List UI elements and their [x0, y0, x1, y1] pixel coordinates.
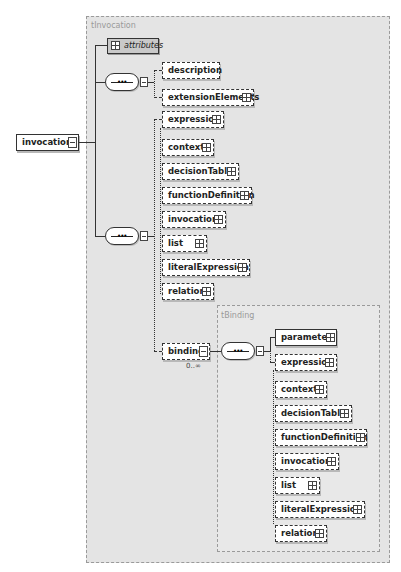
expand-icon[interactable] [356, 433, 365, 442]
element-list[interactable]: list [162, 235, 207, 252]
sequence-compositor-2[interactable]: ••• [105, 227, 139, 245]
type-label-tbinding: tBinding [221, 311, 254, 320]
cardinality-label: 0..∞ [186, 362, 201, 370]
connector [79, 142, 95, 143]
element-binding-functiondefinition[interactable]: functionDefinition [275, 429, 367, 446]
choice-connector [273, 370, 274, 524]
expand-icon[interactable] [214, 215, 223, 224]
connector [95, 236, 105, 237]
element-invocation[interactable]: invocation [162, 211, 226, 228]
collapse-icon[interactable] [140, 77, 148, 87]
element-binding-expression[interactable]: expression [275, 354, 337, 371]
element-extensionelements[interactable]: extensionElements [162, 89, 254, 106]
expand-icon[interactable] [240, 191, 249, 200]
element-functiondefinition[interactable]: functionDefinition [162, 187, 252, 204]
expand-icon[interactable] [340, 409, 349, 418]
element-context[interactable]: context [162, 139, 214, 156]
collapse-icon[interactable] [68, 137, 77, 148]
collapse-icon[interactable] [256, 346, 264, 356]
expand-icon[interactable] [195, 239, 204, 248]
element-binding-list[interactable]: list [275, 477, 320, 494]
element-decisiontable[interactable]: decisionTable [162, 163, 239, 180]
expand-icon[interactable] [308, 481, 317, 490]
choice-connector [160, 128, 161, 294]
connector [270, 351, 271, 362]
expand-icon[interactable] [202, 143, 211, 152]
expand-icon[interactable] [202, 287, 211, 296]
expand-icon[interactable] [238, 263, 247, 272]
connector [154, 70, 162, 71]
collapse-icon[interactable] [199, 346, 208, 357]
root-element-invocation[interactable]: invocation [16, 134, 79, 151]
expand-icon[interactable] [227, 167, 236, 176]
expand-icon[interactable] [111, 41, 120, 50]
connector [154, 70, 155, 98]
sequence-compositor-1[interactable]: ••• [105, 73, 139, 91]
connector [154, 119, 162, 120]
connector [210, 351, 221, 352]
element-binding-literalexpression[interactable]: literalExpression [275, 501, 365, 518]
element-label: invocation [22, 135, 72, 150]
connector [95, 45, 107, 46]
connector [154, 119, 155, 351]
expand-icon[interactable] [353, 505, 362, 514]
connector [270, 337, 271, 351]
attributes-label: attributes [124, 41, 163, 50]
element-description[interactable]: description [162, 62, 220, 79]
expand-icon[interactable] [315, 529, 324, 538]
element-binding-invocation[interactable]: invocation [275, 453, 339, 470]
expand-icon[interactable] [242, 93, 251, 102]
expand-icon[interactable] [327, 457, 336, 466]
sequence-compositor-3[interactable]: ••• [221, 342, 255, 360]
attributes-group[interactable]: attributes [107, 38, 159, 54]
element-parameter[interactable]: parameter [275, 329, 337, 346]
connector [154, 97, 162, 98]
element-literalexpression[interactable]: literalExpression [162, 259, 250, 276]
expand-icon[interactable] [212, 115, 221, 124]
expand-icon[interactable] [326, 333, 335, 342]
connector [154, 351, 162, 352]
element-binding-decisiontable[interactable]: decisionTable [275, 405, 352, 422]
connector [95, 82, 105, 83]
expand-icon[interactable] [315, 385, 324, 394]
expand-icon[interactable] [325, 358, 334, 367]
type-label-tinvocation: tInvocation [91, 21, 136, 30]
connector [95, 45, 96, 236]
element-binding-context[interactable]: context [275, 381, 327, 398]
element-binding[interactable]: binding [162, 343, 210, 360]
collapse-icon[interactable] [140, 231, 148, 241]
element-binding-relation[interactable]: relation [275, 525, 327, 542]
element-relation[interactable]: relation [162, 283, 214, 300]
element-expression[interactable]: expression [162, 111, 224, 128]
